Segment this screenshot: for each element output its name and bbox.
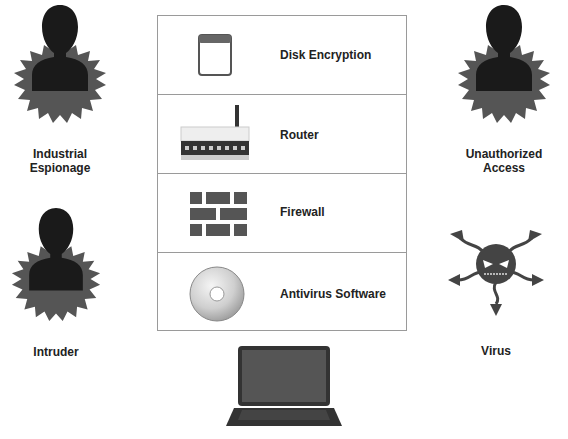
virus-icon (440, 220, 552, 320)
router-icon (180, 105, 250, 163)
defense-label: Router (280, 128, 319, 142)
threat-industrial-espionage: Industrial Espionage (8, 5, 112, 175)
threat-virus: Virus (440, 220, 552, 358)
threat-label: Industrial Espionage (8, 147, 112, 175)
person-burst-icon (8, 208, 104, 323)
defense-row-router: Router (158, 95, 406, 174)
defense-row-disk-encryption: Disk Encryption (158, 16, 406, 95)
threat-label: Unauthorized Access (452, 147, 556, 175)
threat-label: Virus (440, 344, 552, 358)
threat-label: Intruder (6, 345, 106, 359)
person-burst-icon (10, 5, 110, 125)
laptop-icon (224, 344, 344, 430)
defense-label: Antivirus Software (280, 287, 386, 301)
window-icon (198, 34, 232, 76)
person-burst-icon (454, 5, 554, 125)
defense-label: Disk Encryption (280, 48, 371, 62)
defense-layers-panel: Disk Encryption Router Firewall Antiviru… (157, 15, 407, 331)
defense-row-antivirus: Antivirus Software (158, 253, 406, 332)
cd-disc-icon (188, 265, 246, 323)
threat-intruder: Intruder (6, 208, 106, 359)
threat-unauthorized-access: Unauthorized Access (452, 5, 556, 175)
defense-label: Firewall (280, 205, 325, 219)
brick-wall-icon (190, 192, 248, 236)
defense-row-firewall: Firewall (158, 174, 406, 253)
